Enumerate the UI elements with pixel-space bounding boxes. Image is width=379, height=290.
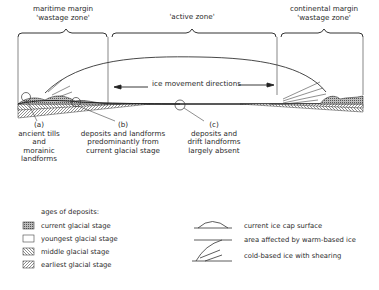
legend-symbol-warm-based: area affected by warm-based ice bbox=[244, 236, 356, 244]
zone-label-continental: continental margin 'wastage zone' bbox=[282, 5, 366, 22]
callout-a: (a) ancient tills and morainic landforms bbox=[12, 121, 66, 164]
zone-braces bbox=[18, 29, 363, 37]
legend-item-current: current glacial stage bbox=[41, 222, 111, 230]
legend-item-middle: middle glacial stage bbox=[41, 248, 109, 256]
legend-ages-title: ages of deposits: bbox=[41, 208, 99, 216]
left-shear-lines bbox=[48, 80, 72, 98]
callout-c: (c) deposits and drift landforms largely… bbox=[182, 121, 246, 155]
zone-label-maritime: maritime margin 'wastage zone' bbox=[28, 5, 98, 22]
ice-movement-label: ice movement directions bbox=[152, 80, 236, 89]
legend-symbols bbox=[192, 222, 232, 262]
callout-b: (b) deposits and landforms predominantly… bbox=[78, 121, 168, 155]
right-deposits bbox=[240, 96, 363, 112]
callout-circle-c bbox=[175, 100, 185, 110]
legend-symbol-ice-cap: current ice cap surface bbox=[244, 222, 322, 230]
zone-dividers bbox=[18, 37, 363, 105]
legend-symbol-cold-based: cold-based ice with shearing bbox=[244, 252, 341, 260]
legend-item-earliest: earliest glacial stage bbox=[41, 261, 112, 269]
zone-label-active: 'active zone' bbox=[160, 13, 224, 22]
legend-item-youngest: youngest glacial stage bbox=[41, 235, 118, 243]
legend-swatches bbox=[23, 222, 34, 268]
